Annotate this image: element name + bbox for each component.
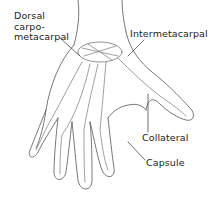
thumb-outline — [126, 32, 193, 120]
label-intermetacarpal: Intermetacarpal — [130, 29, 208, 40]
leader-capsule — [128, 142, 145, 160]
label-collateral: Collateral — [142, 133, 188, 144]
hand-ligament-diagram: Dorsal carpo- metacarpal Intermetacarpal… — [0, 0, 213, 200]
label-dorsal-carpometacarpal: Dorsal carpo- metacarpal — [14, 11, 69, 43]
label-capsule: Capsule — [146, 158, 185, 169]
leader-intermetacarpal — [128, 40, 144, 56]
hand-outline-left — [36, 45, 74, 148]
